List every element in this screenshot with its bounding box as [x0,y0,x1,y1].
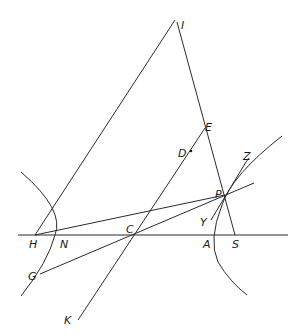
label-A: A [202,238,211,251]
label-K: K [64,314,72,327]
label-D: D [178,147,186,160]
label-E: E [205,121,212,134]
label-N: N [60,238,68,251]
hyperbola-diagram: I E D Z P Y H N C A S G K [0,0,300,336]
label-H: H [29,238,37,251]
segment-GP [40,183,254,274]
label-I: I [181,19,184,32]
label-Y: Y [200,216,208,229]
label-G: G [28,270,37,283]
point-D-dot [190,150,193,153]
segment-HI [35,20,175,235]
label-Z: Z [242,150,251,163]
label-P: P [215,188,222,201]
label-C: C [126,223,134,236]
label-S: S [232,238,239,251]
